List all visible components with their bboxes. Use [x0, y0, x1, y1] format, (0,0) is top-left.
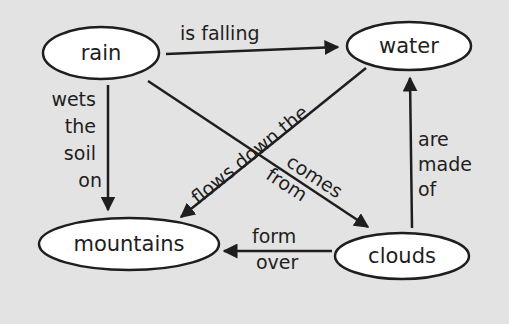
node-label-rain: rain [81, 41, 122, 65]
arrow-rain-to-water [166, 47, 338, 54]
node-mountains: mountains [39, 218, 219, 270]
concept-map: is falling wets the soil on comes from f… [0, 0, 509, 324]
link-label-are-made-of: are made of [418, 128, 478, 200]
link-label-over: over [256, 251, 299, 273]
link-rain-water: is falling [166, 22, 338, 54]
link-clouds-water: are made of [410, 78, 478, 228]
arrow-clouds-to-water [410, 78, 412, 228]
node-clouds: clouds [335, 233, 469, 279]
node-water: water [347, 22, 471, 70]
node-label-water: water [379, 34, 439, 58]
link-label-wets-the-soil-on: wets the soil on [51, 88, 102, 191]
link-label-is-falling: is falling [180, 22, 260, 44]
node-label-mountains: mountains [73, 232, 184, 256]
node-rain: rain [43, 27, 159, 79]
node-label-clouds: clouds [368, 244, 436, 268]
link-label-form: form [252, 225, 296, 247]
link-clouds-mountains: form over [224, 225, 332, 273]
link-rain-mountains: wets the soil on [51, 85, 108, 210]
